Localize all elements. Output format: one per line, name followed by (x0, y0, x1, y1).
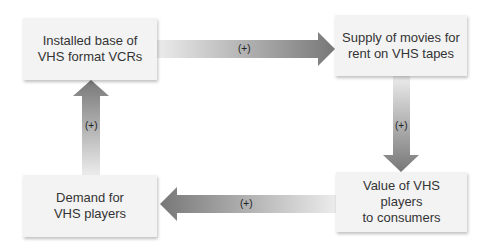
edge-label: (+) (238, 43, 251, 54)
node-label: Supply of movies for rent on VHS tapes (342, 30, 460, 62)
node-label: Demand for VHS players (54, 190, 126, 222)
edge-label: (+) (85, 120, 98, 131)
node-demand-players: Demand for VHS players (23, 175, 157, 237)
node-value-players: Value of VHS players to consumers (336, 172, 467, 232)
node-installed-base: Installed base of VHS format VCRs (23, 18, 157, 80)
edge-label: (+) (395, 120, 408, 131)
node-label: Value of VHS players to consumers (362, 178, 440, 226)
edge-label: (+) (240, 198, 253, 209)
node-label: Installed base of VHS format VCRs (38, 33, 143, 65)
node-supply-movies: Supply of movies for rent on VHS tapes (335, 15, 467, 76)
